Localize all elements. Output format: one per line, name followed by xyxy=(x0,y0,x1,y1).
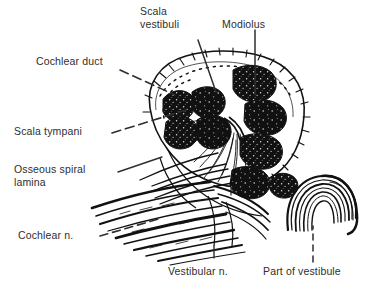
label-scala-tympani: Scala tympani xyxy=(14,125,82,138)
label-part-of-vestibule: Part of vestibule xyxy=(263,265,341,278)
label-vestibular-n: Vestibular n. xyxy=(168,265,228,278)
label-scala-vestibuli: Scala vestibuli xyxy=(140,5,179,30)
label-modiolus: Modiolus xyxy=(222,18,265,31)
label-cochlear-duct: Cochlear duct xyxy=(36,55,103,68)
cochlear-duct-leader xyxy=(120,70,175,95)
cochlea-illustration xyxy=(0,0,384,292)
cochlea-figure: Scala vestibuli Modiolus Cochlear duct S… xyxy=(0,0,384,292)
label-cochlear-n: Cochlear n. xyxy=(18,229,73,242)
osseous-spiral-lamina-leader xyxy=(118,157,162,172)
label-osseous-spiral-lamina: Osseous spiral lamina xyxy=(14,163,86,188)
scalae-sections xyxy=(163,65,298,198)
